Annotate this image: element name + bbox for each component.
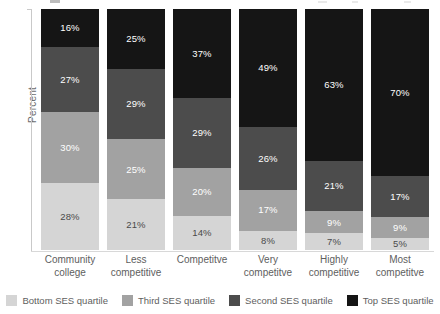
bar-segment-value-label: 26% xyxy=(258,154,277,164)
legend-swatch-icon xyxy=(6,295,17,306)
bar-segment-value-label: 29% xyxy=(126,99,145,109)
bar-segment-top[interactable]: 63% xyxy=(305,9,363,161)
bar-segment-third[interactable]: 30% xyxy=(41,112,99,184)
bar-segment-third[interactable]: 9% xyxy=(371,217,429,238)
x-axis-label: Highlycompetitive xyxy=(305,254,363,286)
bar-segment-bottom[interactable]: 8% xyxy=(239,231,297,250)
plot-area: 16%27%30%28%25%29%25%21%37%29%20%14%49%2… xyxy=(31,9,434,250)
legend-swatch-icon xyxy=(229,295,240,306)
x-axis-label-line2: competitve xyxy=(239,267,297,280)
x-axis-label-line2: competitve xyxy=(371,267,429,280)
x-axis-label-line1: Very xyxy=(258,254,278,265)
legend-swatch-icon xyxy=(347,295,358,306)
x-axis-category-labels: CommunitycollegeLesscompetitiveCompetitv… xyxy=(31,254,434,286)
bar-column[interactable]: 25%29%25%21% xyxy=(107,9,165,250)
legend-item-bottom[interactable]: Bottom SES quartile xyxy=(6,295,108,306)
bar-segment-value-label: 21% xyxy=(126,220,145,230)
bar-segment-value-label: 30% xyxy=(60,143,79,153)
bar-segment-third[interactable]: 17% xyxy=(239,190,297,231)
bar-segment-value-label: 25% xyxy=(126,34,145,44)
x-axis-label-line1: Highly xyxy=(320,254,348,265)
bar-segment-value-label: 25% xyxy=(126,165,145,175)
legend-swatch-icon xyxy=(122,295,133,306)
crop-artifact-mark xyxy=(318,1,327,3)
bar-segment-top[interactable]: 16% xyxy=(41,9,99,47)
bar-segment-value-label: 17% xyxy=(390,192,409,202)
bar-segment-value-label: 63% xyxy=(324,80,343,90)
bar-column[interactable]: 49%26%17%8% xyxy=(239,9,297,250)
bar-segment-value-label: 8% xyxy=(261,236,275,246)
bar-segment-value-label: 29% xyxy=(192,128,211,138)
legend-label: Second SES quartile xyxy=(245,295,333,306)
crop-artifact-mark xyxy=(352,1,358,3)
legend-label: Top SES quartile xyxy=(363,295,434,306)
x-axis-label-line2: college xyxy=(41,267,99,280)
bar-segment-second[interactable]: 21% xyxy=(305,161,363,212)
bar-segment-value-label: 27% xyxy=(60,75,79,85)
bar-segment-top[interactable]: 37% xyxy=(173,9,231,98)
bar-segment-value-label: 9% xyxy=(327,218,341,228)
x-axis-label: Competitve xyxy=(173,254,231,286)
bar-segment-third[interactable]: 9% xyxy=(305,211,363,233)
x-axis-label: Communitycollege xyxy=(41,254,99,286)
legend-item-second[interactable]: Second SES quartile xyxy=(229,295,333,306)
bar-segment-value-label: 28% xyxy=(60,212,79,222)
bar-segment-bottom[interactable]: 28% xyxy=(41,183,99,250)
legend-item-third[interactable]: Third SES quartile xyxy=(122,295,215,306)
x-axis-label: Mostcompetitve xyxy=(371,254,429,286)
bar-segment-value-label: 70% xyxy=(390,88,409,98)
bar-segment-third[interactable]: 25% xyxy=(107,139,165,199)
x-axis-label-line1: Competitve xyxy=(177,254,228,265)
bar-segment-value-label: 7% xyxy=(327,237,341,247)
legend-item-top[interactable]: Top SES quartile xyxy=(347,295,434,306)
bar-segment-bottom[interactable]: 5% xyxy=(371,238,429,250)
bar-segment-second[interactable]: 27% xyxy=(41,47,99,111)
cropped-title-strip xyxy=(0,0,440,9)
crop-artifact-mark xyxy=(50,0,60,3)
x-axis-line xyxy=(31,251,434,252)
legend-label: Bottom SES quartile xyxy=(22,295,108,306)
bar-segment-second[interactable]: 17% xyxy=(371,176,429,217)
bar-segment-second[interactable]: 29% xyxy=(107,69,165,139)
bar-segment-bottom[interactable]: 14% xyxy=(173,216,231,250)
bar-segment-value-label: 17% xyxy=(258,205,277,215)
x-axis-label-line2: competitive xyxy=(305,267,363,280)
x-axis-label-line1: Most xyxy=(389,254,411,265)
x-axis-label: Verycompetitve xyxy=(239,254,297,286)
bar-segment-value-label: 9% xyxy=(393,223,407,233)
bar-column[interactable]: 16%27%30%28% xyxy=(41,9,99,250)
bars-container: 16%27%30%28%25%29%25%21%37%29%20%14%49%2… xyxy=(31,9,434,250)
stacked-bar-chart: Percent 16%27%30%28%25%29%25%21%37%29%20… xyxy=(0,0,440,314)
x-axis-label: Lesscompetitive xyxy=(107,254,165,286)
bar-column[interactable]: 70%17%9%5% xyxy=(371,9,429,250)
bar-segment-value-label: 21% xyxy=(324,181,343,191)
bar-segment-value-label: 49% xyxy=(258,63,277,73)
bar-segment-value-label: 16% xyxy=(60,23,79,33)
x-axis-label-line2: competitive xyxy=(107,267,165,280)
chart-legend: Bottom SES quartileThird SES quartileSec… xyxy=(0,289,440,311)
bar-segment-value-label: 14% xyxy=(192,228,211,238)
bar-segment-third[interactable]: 20% xyxy=(173,168,231,216)
bar-segment-top[interactable]: 70% xyxy=(371,9,429,176)
bar-segment-bottom[interactable]: 7% xyxy=(305,233,363,250)
bar-segment-value-label: 5% xyxy=(393,239,407,249)
x-axis-label-line1: Less xyxy=(125,254,146,265)
bar-column[interactable]: 63%21%9%7% xyxy=(305,9,363,250)
legend-label: Third SES quartile xyxy=(138,295,215,306)
bar-segment-second[interactable]: 26% xyxy=(239,127,297,190)
bar-segment-top[interactable]: 25% xyxy=(107,9,165,69)
x-axis-label-line1: Community xyxy=(45,254,96,265)
bar-segment-bottom[interactable]: 21% xyxy=(107,199,165,250)
bar-column[interactable]: 37%29%20%14% xyxy=(173,9,231,250)
bar-segment-second[interactable]: 29% xyxy=(173,98,231,168)
bar-segment-value-label: 20% xyxy=(192,187,211,197)
bar-segment-value-label: 37% xyxy=(192,49,211,59)
crop-artifact-mark xyxy=(404,1,411,3)
bar-segment-top[interactable]: 49% xyxy=(239,9,297,127)
